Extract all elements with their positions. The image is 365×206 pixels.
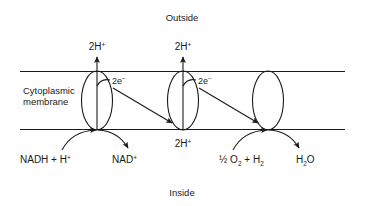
proton-label-top-2: 2H+ — [175, 41, 192, 53]
nad-output-arrow — [98, 130, 128, 148]
electron-label-1: 2e− — [112, 75, 126, 86]
cytoplasmic-membrane-label-line2: membrane — [23, 96, 68, 107]
outside-label: Outside — [166, 12, 199, 23]
oxygen-input-arrow — [233, 130, 267, 150]
nadh-input-arrow — [62, 130, 96, 150]
proton-label-inside: 2H+ — [175, 138, 192, 150]
electron-transfer-arrow-1 — [113, 88, 172, 123]
cytoplasmic-membrane-label-line1: Cytoplasmic — [23, 85, 75, 96]
electron-label-2: 2e− — [198, 75, 212, 86]
proton-label-top-1: 2H+ — [89, 41, 106, 53]
electron-transport-chain-diagram: Outside Inside Cytoplasmic membrane 2H+ … — [0, 0, 365, 206]
protein-complex-3 — [253, 71, 284, 130]
water-output-arrow — [269, 130, 299, 148]
inside-label: Inside — [169, 187, 194, 198]
oxygen-label: ½ O2 + H2 — [219, 154, 264, 167]
nad-plus-label: NAD+ — [112, 154, 137, 166]
nadh-label: NADH + H+ — [20, 154, 71, 166]
water-label: H2O — [296, 154, 315, 167]
electron-transfer-arrow-2 — [199, 88, 258, 123]
